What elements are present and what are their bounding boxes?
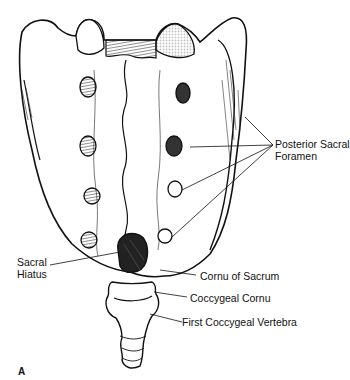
label-line-1: Sacral: [17, 256, 47, 268]
panel-label: A: [18, 366, 25, 378]
label-line-2: Foramen: [275, 150, 350, 162]
label-cornu-of-sacrum: Cornu of Sacrum: [200, 270, 279, 282]
sacral-hiatus: [118, 234, 148, 273]
label-line-1: Posterior Sacral: [275, 138, 350, 150]
sacral-base: [106, 40, 156, 58]
label-line-2: Hiatus: [17, 268, 47, 280]
right-superior-process: [156, 24, 194, 58]
label-first-coccygeal-vertebra: First Coccygeal Vertebra: [182, 316, 297, 328]
label-sacral-hiatus: Sacral Hiatus: [17, 256, 47, 280]
label-coccygeal-cornu: Coccygeal Cornu: [190, 292, 271, 304]
label-posterior-sacral-foramen: Posterior Sacral Foramen: [275, 138, 350, 162]
coccyx: [106, 282, 159, 368]
